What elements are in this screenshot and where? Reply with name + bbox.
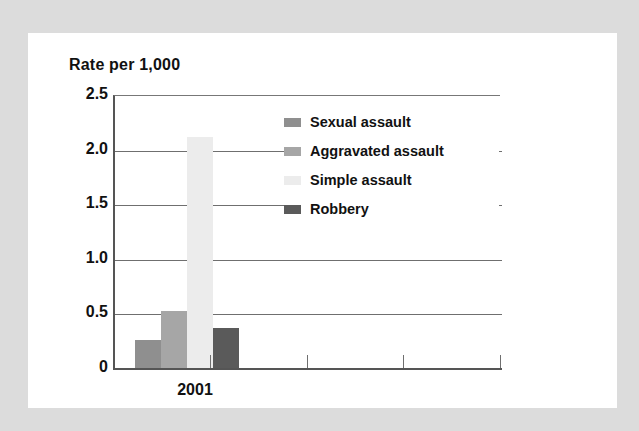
- y-tick-label-0.5: 0.5: [30, 303, 108, 321]
- bar-robbery: [213, 328, 239, 368]
- legend-swatch-icon: [284, 176, 301, 185]
- legend-item-robbery: Robbery: [284, 195, 499, 224]
- legend-swatch-icon: [284, 205, 301, 214]
- bar-aggravated-assault: [161, 311, 187, 368]
- x-axis-category-label: 2001: [135, 381, 255, 399]
- y-tick-label-1.0: 1.0: [30, 249, 108, 267]
- legend-item-sexual-assault: Sexual assault: [284, 108, 499, 137]
- y-tick-label-2.5: 2.5: [30, 85, 108, 103]
- legend-label: Aggravated assault: [310, 144, 444, 159]
- legend-swatch-icon: [284, 118, 301, 127]
- legend-item-simple-assault: Simple assault: [284, 166, 499, 195]
- scanned-page-border: Rate per 1,000 2.52.01.51.00.50 Sexual a…: [0, 0, 639, 431]
- chart-legend: Sexual assaultAggravated assaultSimple a…: [284, 108, 499, 224]
- bar-simple-assault: [187, 137, 213, 369]
- y-tick-label-0: 0: [30, 358, 108, 376]
- x-axis-line: [113, 368, 502, 370]
- x-axis-tick-2: [307, 355, 308, 368]
- bar-chart-figure: Rate per 1,000 2.52.01.51.00.50 Sexual a…: [28, 33, 617, 408]
- bar-sexual-assault: [135, 340, 161, 368]
- x-axis-tick-4: [500, 355, 501, 368]
- legend-item-aggravated-assault: Aggravated assault: [284, 137, 499, 166]
- y-tick-label-2.0: 2.0: [30, 140, 108, 158]
- y-axis-tick-labels: 2.52.01.51.00.50: [28, 33, 108, 408]
- y-tick-label-1.5: 1.5: [30, 194, 108, 212]
- x-axis-tick-3: [403, 355, 404, 368]
- legend-label: Simple assault: [310, 173, 412, 188]
- legend-label: Robbery: [310, 202, 369, 217]
- document-page: Rate per 1,000 2.52.01.51.00.50 Sexual a…: [28, 33, 617, 408]
- x-axis-tick-1: [210, 355, 211, 368]
- legend-label: Sexual assault: [310, 115, 411, 130]
- legend-swatch-icon: [284, 147, 301, 156]
